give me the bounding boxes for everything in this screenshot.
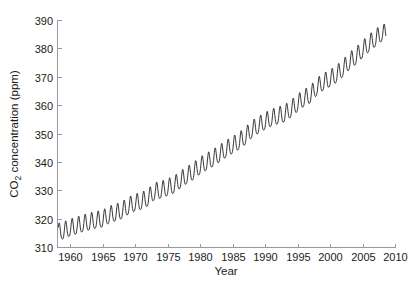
co2-keeling-curve-chart: 310320330340350360370380390 196019651970… [0,0,412,290]
y-tick-label: 350 [35,129,53,141]
y-tick-label: 370 [35,72,53,84]
axis-spines [58,20,396,248]
co2-concentration-line [58,24,385,239]
y-axis-title-group: CO2 concentration (ppm) [8,70,23,198]
x-tick-label: 1965 [91,251,115,263]
y-tick-label: 310 [35,242,53,254]
x-tick-label: 1975 [156,251,180,263]
x-tick-label: 2005 [351,251,375,263]
figure-container: 310320330340350360370380390 196019651970… [0,0,412,290]
y-tick-label: 320 [35,214,53,226]
y-axis-title: CO2 concentration (ppm) [8,70,23,198]
x-tick-label: 1985 [221,251,245,263]
x-tick-label: 1970 [123,251,147,263]
y-tick-label: 390 [35,15,53,27]
y-tick-label: 340 [35,157,53,169]
axis-spine-left-bottom [58,20,396,248]
y-axis-tick-labels: 310320330340350360370380390 [35,15,53,254]
x-tick-label: 2010 [383,251,407,263]
x-axis-tick-labels: 1960196519701975198019851990199520002005… [58,251,407,263]
x-axis-title: Year [214,265,237,277]
x-tick-label: 1990 [253,251,277,263]
y-tick-label: 360 [35,100,53,112]
y-tick-label: 330 [35,185,53,197]
x-tick-label: 2000 [318,251,342,263]
data-series-group [58,24,385,239]
x-tick-label: 1995 [286,251,310,263]
x-axis-tickmarks [71,244,396,248]
y-tick-label: 380 [35,43,53,55]
x-tick-label: 1960 [58,251,82,263]
y-axis-tickmarks [58,21,62,248]
x-tick-label: 1980 [188,251,212,263]
